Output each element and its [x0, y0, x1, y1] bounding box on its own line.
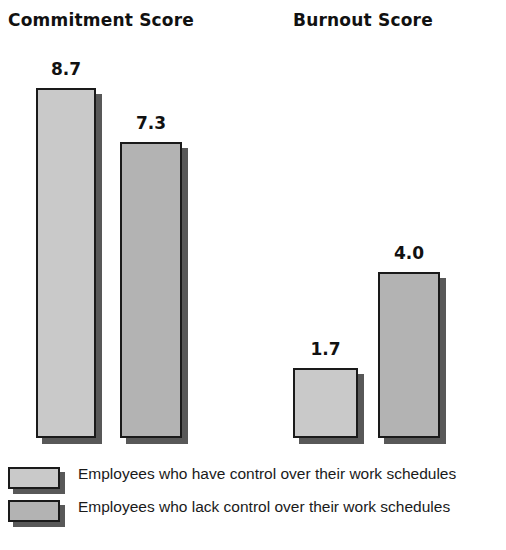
bar-value-label: 1.7 [293, 339, 358, 359]
chart-legend: Employees who have control over their wo… [0, 462, 506, 528]
bar-burnout-lack-control [378, 272, 440, 438]
bar-body [36, 88, 96, 438]
bar-value-label: 7.3 [120, 113, 182, 133]
group-title-commitment: Commitment Score [8, 10, 194, 30]
legend-swatch-body [8, 467, 60, 489]
legend-label: Employees who lack control over their wo… [78, 498, 450, 516]
bar-value-label: 8.7 [36, 59, 96, 79]
bar-commitment-lack-control [120, 142, 182, 438]
group-title-burnout: Burnout Score [293, 10, 433, 30]
legend-swatch-have-control [8, 467, 60, 489]
bar-commitment-have-control [36, 88, 96, 438]
legend-swatch-lack-control [8, 500, 60, 522]
bar-body [120, 142, 182, 438]
bar-burnout-have-control [293, 368, 358, 438]
legend-swatch-body [8, 500, 60, 522]
bar-body [378, 272, 440, 438]
legend-item-lack-control: Employees who lack control over their wo… [0, 495, 506, 528]
legend-label: Employees who have control over their wo… [78, 465, 456, 483]
bar-value-label: 4.0 [378, 243, 440, 263]
legend-item-have-control: Employees who have control over their wo… [0, 462, 506, 495]
bar-chart: Commitment Score Burnout Score 8.7 7.3 1… [0, 0, 506, 455]
bar-body [293, 368, 358, 438]
